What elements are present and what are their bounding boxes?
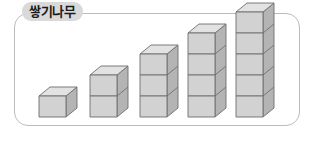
- cube-stack-1: [38, 86, 78, 118]
- cube-stack-5: [235, 2, 275, 118]
- figure-title-text: 쌓기나무: [29, 5, 76, 18]
- figure-title-badge: 쌓기나무: [22, 2, 83, 21]
- cube-stack-4: [187, 23, 227, 118]
- cube-stack-3: [139, 44, 179, 118]
- cube-stack-2: [89, 65, 129, 118]
- stack-2: [89, 65, 129, 118]
- stack-4: [187, 23, 227, 118]
- stack-3: [139, 44, 179, 118]
- stack-1: [38, 86, 78, 118]
- stack-5: [235, 2, 275, 118]
- cube-stage: [14, 13, 300, 126]
- cube-stack-figure: 쌓기나무: [0, 0, 316, 143]
